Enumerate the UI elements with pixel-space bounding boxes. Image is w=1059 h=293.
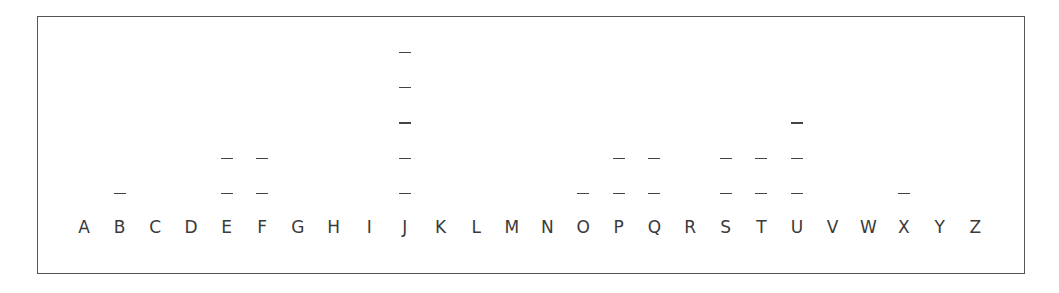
column-a: A — [69, 0, 99, 293]
tally-mark — [399, 52, 411, 53]
category-label: E — [212, 217, 242, 237]
tally-mark — [399, 122, 411, 123]
column-g: G — [283, 0, 313, 293]
category-label: U — [782, 217, 812, 237]
tally-mark — [399, 158, 411, 159]
category-label: F — [247, 217, 277, 237]
category-label: X — [889, 217, 919, 237]
category-label: P — [604, 217, 634, 237]
tally-mark — [898, 193, 910, 194]
category-label: H — [319, 217, 349, 237]
tally-mark — [221, 193, 233, 194]
category-label: W — [853, 217, 883, 237]
category-label: L — [461, 217, 491, 237]
tally-mark — [648, 158, 660, 159]
column-w: W — [853, 0, 883, 293]
column-q: Q — [639, 0, 669, 293]
tally-mark — [755, 193, 767, 194]
category-label: J — [390, 217, 420, 237]
tally-mark — [114, 193, 126, 194]
column-k: K — [426, 0, 456, 293]
tally-mark — [256, 158, 268, 159]
tally-mark — [755, 158, 767, 159]
tally-mark — [648, 193, 660, 194]
tally-mark — [720, 193, 732, 194]
category-label: V — [818, 217, 848, 237]
tally-mark — [791, 122, 803, 123]
tally-mark — [399, 87, 411, 88]
column-i: I — [354, 0, 384, 293]
category-label: M — [497, 217, 527, 237]
tally-mark — [613, 193, 625, 194]
column-t: T — [746, 0, 776, 293]
column-b: B — [105, 0, 135, 293]
category-label: O — [568, 217, 598, 237]
column-j: J — [390, 0, 420, 293]
column-e: E — [212, 0, 242, 293]
category-label: S — [711, 217, 741, 237]
tally-mark — [577, 193, 589, 194]
category-label: I — [354, 217, 384, 237]
column-h: H — [319, 0, 349, 293]
tally-mark — [791, 193, 803, 194]
category-label: Z — [960, 217, 990, 237]
category-label: A — [69, 217, 99, 237]
column-d: D — [176, 0, 206, 293]
column-n: N — [532, 0, 562, 293]
tally-mark — [256, 193, 268, 194]
tally-mark — [221, 158, 233, 159]
column-y: Y — [925, 0, 955, 293]
column-x: X — [889, 0, 919, 293]
column-v: V — [818, 0, 848, 293]
column-c: C — [140, 0, 170, 293]
category-label: B — [105, 217, 135, 237]
tally-mark — [791, 158, 803, 159]
tally-mark — [399, 193, 411, 194]
column-u: U — [782, 0, 812, 293]
category-label: R — [675, 217, 705, 237]
column-o: O — [568, 0, 598, 293]
column-f: F — [247, 0, 277, 293]
column-z: Z — [960, 0, 990, 293]
tally-mark — [720, 158, 732, 159]
tally-mark — [613, 158, 625, 159]
column-s: S — [711, 0, 741, 293]
category-label: N — [532, 217, 562, 237]
category-label: D — [176, 217, 206, 237]
category-label: K — [426, 217, 456, 237]
column-p: P — [604, 0, 634, 293]
category-label: Q — [639, 217, 669, 237]
column-r: R — [675, 0, 705, 293]
category-label: T — [746, 217, 776, 237]
column-l: L — [461, 0, 491, 293]
category-label: Y — [925, 217, 955, 237]
column-m: M — [497, 0, 527, 293]
category-label: G — [283, 217, 313, 237]
category-label: C — [140, 217, 170, 237]
